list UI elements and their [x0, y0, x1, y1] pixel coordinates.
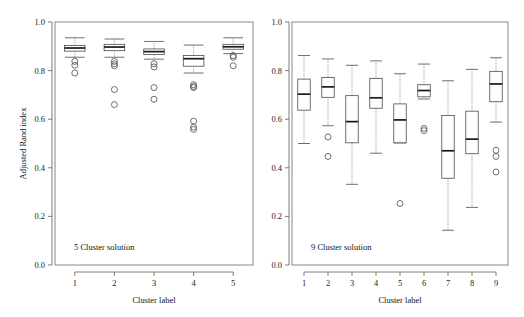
x-tick-label: 4	[191, 278, 196, 288]
y-tick-label: 0.6	[271, 114, 282, 124]
x-axis-title: Cluster label	[378, 295, 422, 305]
outlier-point	[493, 153, 499, 159]
outlier-point	[151, 96, 157, 102]
chart-canvas: 0.00.20.40.60.81.012345Cluster labelAdju…	[0, 0, 524, 317]
y-tick-label: 0.4	[271, 163, 282, 173]
box-iqr	[442, 116, 454, 179]
x-axis-title: Cluster label	[132, 295, 176, 305]
box-iqr	[183, 56, 204, 67]
box-iqr	[346, 96, 358, 143]
outlier-point	[111, 102, 117, 108]
boxplot-group	[65, 38, 86, 76]
outlier-point	[72, 62, 78, 68]
x-tick-label: 2	[326, 278, 330, 288]
x-tick-label: 3	[152, 278, 156, 288]
panel-left: 0.00.20.40.60.81.012345Cluster labelAdju…	[18, 17, 253, 305]
outlier-point	[325, 134, 331, 140]
boxplot-group	[322, 59, 334, 159]
boxplot-figure: 0.00.20.40.60.81.012345Cluster labelAdju…	[0, 0, 524, 317]
boxplot-group	[104, 39, 125, 108]
boxplot-group	[144, 41, 165, 102]
x-tick-label: 4	[374, 278, 379, 288]
y-tick-label: 0.0	[271, 260, 282, 270]
x-tick-label: 6	[422, 278, 426, 288]
outlier-point	[151, 85, 157, 91]
panel-right: 0.00.20.40.60.81.0123456789Cluster label…	[271, 17, 508, 305]
y-tick-label: 0.6	[34, 114, 45, 124]
y-tick-label: 1.0	[271, 17, 282, 27]
y-axis-title: Adjusted Rand index	[18, 107, 28, 180]
panel-annotation: 5 Cluster solution	[74, 242, 135, 252]
outlier-point	[111, 87, 117, 93]
x-tick-label: 9	[494, 278, 498, 288]
boxplot-group	[442, 81, 454, 230]
x-tick-label: 1	[302, 278, 306, 288]
outlier-point	[72, 70, 78, 76]
x-tick-label: 7	[446, 278, 450, 288]
outlier-point	[325, 153, 331, 159]
outlier-point	[493, 147, 499, 153]
y-tick-label: 0.8	[271, 66, 282, 76]
boxplot-group	[466, 69, 478, 207]
outlier-point	[191, 118, 197, 124]
boxplot-group	[346, 65, 358, 184]
x-tick-label: 2	[112, 278, 116, 288]
outlier-point	[397, 201, 403, 207]
y-tick-label: 0.2	[271, 211, 282, 221]
outlier-point	[493, 169, 499, 175]
panel-annotation: 9 Cluster solution	[311, 242, 372, 252]
y-tick-label: 0.0	[34, 260, 45, 270]
boxplot-group	[418, 64, 430, 134]
x-tick-label: 5	[231, 278, 235, 288]
box-iqr	[466, 111, 478, 154]
boxplot-group	[370, 61, 382, 153]
boxplot-group	[298, 56, 310, 144]
boxplot-group	[223, 38, 244, 69]
boxplot-group	[394, 74, 406, 207]
boxplot-group	[490, 58, 502, 175]
x-tick-label: 5	[398, 278, 402, 288]
box-iqr	[394, 104, 406, 143]
x-tick-label: 8	[470, 278, 474, 288]
y-tick-label: 1.0	[34, 17, 45, 27]
outlier-point	[230, 63, 236, 69]
y-tick-label: 0.4	[34, 163, 45, 173]
boxplot-group	[183, 45, 204, 132]
box-iqr	[370, 78, 382, 108]
y-tick-label: 0.8	[34, 66, 45, 76]
box-iqr	[490, 71, 502, 101]
x-tick-label: 1	[73, 278, 77, 288]
y-tick-label: 0.2	[34, 211, 45, 221]
panel-frame	[55, 22, 253, 265]
x-tick-label: 3	[350, 278, 354, 288]
